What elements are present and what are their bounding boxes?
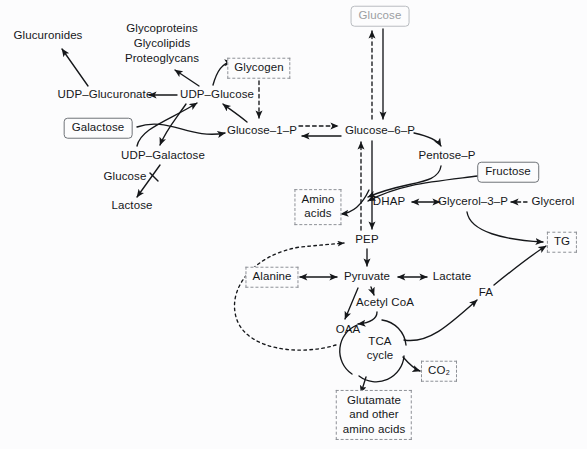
node-udp-glucuronate: UDP–Glucuronate — [58, 88, 153, 102]
edge-tca-fa — [404, 300, 477, 341]
edge-pentosep-dhap — [368, 166, 441, 197]
node-lactose: Lactose — [112, 199, 153, 213]
node-glucose: Glucose — [351, 6, 410, 27]
edge-pyruvate-acetylcoa — [371, 287, 374, 295]
edge-pep-aminoacids — [341, 190, 369, 214]
node-fa: FA — [479, 286, 493, 300]
node-fructose: Fructose — [477, 162, 539, 183]
node-amino-acids: Aminoacids — [294, 189, 341, 225]
node-pentose-p: Pentose–P — [418, 149, 475, 163]
node-glycogen: Glycogen — [227, 58, 290, 79]
node-proteoglycans: Proteoglycans — [125, 52, 199, 66]
edge-glucose6p-pentosep — [414, 133, 441, 146]
edge-udpglucose-glycoconjugates — [175, 70, 199, 86]
node-acetyl-coa: Acetyl CoA — [356, 296, 414, 310]
node-co2: CO₂ — [421, 361, 457, 382]
edge-oaa-pep-dotted-loop — [234, 243, 344, 350]
edge-glucose1p-udpglucose — [223, 104, 247, 122]
node-glycerol: Glycerol — [532, 195, 575, 209]
node-glucose-free: Glucose — [104, 170, 147, 184]
edge-glycerol3p-tg — [467, 212, 543, 242]
edge-tca-co2 — [403, 357, 420, 371]
node-udp-glucose: UDP–Glucose — [180, 88, 254, 102]
node-tca-cycle: TCAcycle — [367, 334, 394, 363]
edge-fa-tg — [494, 246, 546, 285]
node-glycolipids: Glycolipids — [134, 37, 191, 51]
node-tg: TG — [547, 232, 577, 253]
node-glutamate: Glutamateand otheramino acids — [336, 390, 412, 440]
node-glycerol-3-p: Glycerol–3–P — [438, 195, 508, 209]
node-pyruvate: Pyruvate — [344, 270, 390, 284]
node-alanine: Alanine — [245, 267, 298, 288]
node-galactose: Galactose — [64, 118, 133, 139]
node-oaa: OAA — [336, 323, 361, 337]
node-dhap: DHAP — [373, 195, 405, 209]
node-glucuronides: Glucuronides — [14, 29, 83, 43]
node-glucose-6-p: Glucose–6–P — [345, 124, 415, 138]
node-glucose-1-p: Glucose–1–P — [227, 124, 297, 138]
node-pep: PEP — [355, 233, 378, 247]
node-glycoproteins: Glycoproteins — [126, 22, 198, 36]
node-lactate: Lactate — [433, 270, 471, 284]
node-udp-galactose: UDP–Galactose — [121, 149, 205, 163]
edge-udpglucuronate-glucuronides — [62, 49, 88, 86]
edge-acetylcoa-tca — [358, 312, 377, 324]
